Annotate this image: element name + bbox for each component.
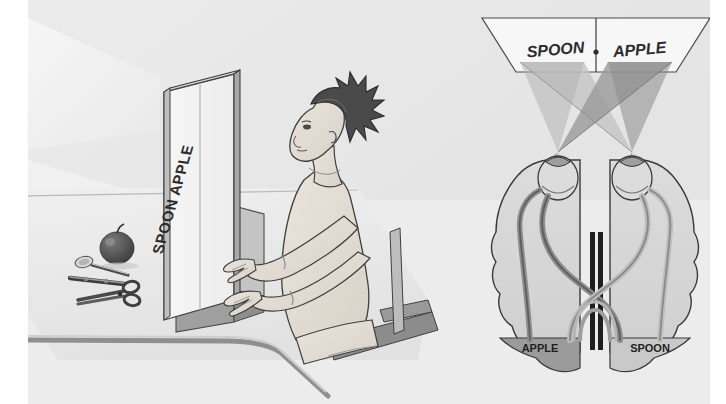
eye [303, 125, 311, 130]
left-hemisphere-label: APPLE [522, 342, 559, 354]
fixation-point [593, 49, 598, 54]
illustration-canvas: SPOON APPLE [28, 0, 710, 404]
right-hemisphere-label: SPOON [630, 342, 670, 354]
figure-root: SPOON APPLE [0, 0, 726, 404]
illustration-svg: SPOON APPLE [28, 0, 710, 404]
